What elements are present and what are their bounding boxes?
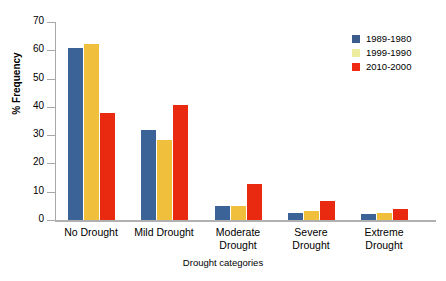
bar: [393, 209, 408, 220]
y-axis-tick-label: 0: [14, 213, 44, 225]
y-axis-tick-label: 10: [14, 185, 44, 197]
x-axis-label-line: Drought: [269, 239, 353, 252]
y-axis-tick-mark: [47, 79, 55, 80]
legend-swatch: [352, 35, 360, 43]
legend-item: 1989-1980: [352, 32, 411, 45]
x-axis-label-line: Drought: [196, 239, 280, 252]
bar: [231, 206, 246, 220]
x-axis-label: ModerateDrought: [196, 226, 280, 251]
bar: [68, 48, 83, 220]
bar: [377, 213, 392, 220]
legend: 1989-19801999-19902010-2000: [352, 32, 411, 74]
bar: [84, 44, 99, 220]
bar: [247, 184, 262, 220]
y-axis-tick-label: 60: [14, 43, 44, 55]
legend-label: 2010-2000: [366, 61, 411, 72]
bar: [157, 140, 172, 220]
bar-chart: % Frequency 010203040506070 No DroughtMi…: [0, 0, 446, 281]
bar: [288, 213, 303, 220]
y-axis-line: [55, 22, 56, 220]
x-axis-line: [55, 220, 436, 222]
bar: [304, 211, 319, 220]
x-axis-label: Mild Drought: [122, 226, 206, 239]
y-axis-tick-mark: [47, 22, 55, 23]
x-axis-label: SevereDrought: [269, 226, 353, 251]
x-axis-label-line: No Drought: [49, 226, 133, 239]
legend-swatch: [352, 49, 360, 57]
bar: [320, 201, 335, 220]
x-axis-label-line: Extreme: [342, 226, 426, 239]
bar: [141, 130, 156, 220]
y-axis-tick-mark: [47, 50, 55, 51]
bar: [100, 113, 115, 220]
bar-group: [68, 22, 115, 220]
legend-swatch: [352, 63, 360, 71]
y-axis-tick-label: 20: [14, 156, 44, 168]
legend-item: 1999-1990: [352, 46, 411, 59]
y-axis-tick-mark: [47, 192, 55, 193]
y-axis-tick-mark: [47, 135, 55, 136]
bar: [173, 105, 188, 220]
legend-item: 2010-2000: [352, 60, 411, 73]
y-axis-tick-label: 30: [14, 128, 44, 140]
y-axis-tick-label: 70: [14, 15, 44, 27]
y-axis-tick-mark: [47, 163, 55, 164]
y-axis-tick-label: 40: [14, 100, 44, 112]
legend-label: 1989-1980: [366, 33, 411, 44]
x-axis-label-line: Moderate: [196, 226, 280, 239]
x-axis-label-line: Drought: [342, 239, 426, 252]
bar-group: [288, 22, 335, 220]
legend-label: 1999-1990: [366, 47, 411, 58]
x-axis-label: ExtremeDrought: [342, 226, 426, 251]
bar: [215, 206, 230, 220]
bar: [361, 214, 376, 220]
y-axis-tick-mark: [47, 220, 55, 221]
x-axis-label-line: Severe: [269, 226, 353, 239]
x-axis-label: No Drought: [49, 226, 133, 239]
y-axis-tick-mark: [47, 107, 55, 108]
x-axis-title: Drought categories: [0, 257, 446, 268]
y-axis-tick-label: 50: [14, 72, 44, 84]
x-axis-label-line: Mild Drought: [122, 226, 206, 239]
bar-group: [215, 22, 262, 220]
bar-group: [141, 22, 188, 220]
